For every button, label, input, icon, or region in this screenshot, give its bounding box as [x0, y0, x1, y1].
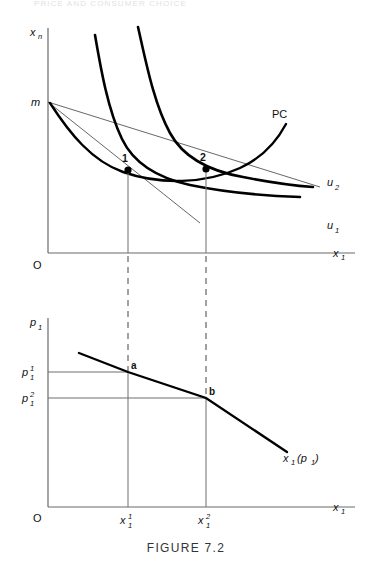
quantity-tick-x1-1-sup: 1 [128, 512, 132, 521]
price-tick-p1-2-base: p [21, 392, 28, 404]
demand-point-b-label: b [209, 386, 215, 397]
u2-label: u [327, 176, 333, 188]
lower-y-axis-label-sub: 1 [38, 323, 42, 332]
figure-canvas: x n x 1 O m PC u 2 u [0, 0, 372, 583]
endowment-label-m: m [31, 96, 40, 108]
upper-x-axis-label: x [332, 247, 339, 259]
quantity-tick-x1-2-sup: 2 [205, 512, 211, 521]
figure-page: PRICE AND CONSUMER CHOICE x n x 1 O m [0, 0, 372, 583]
price-tick-p1-2-sup: 2 [29, 390, 35, 399]
demand-point-a-label: a [131, 360, 137, 371]
lower-x-axis-label-sub: 1 [341, 507, 345, 516]
quantity-tick-x1-1-base: x [119, 514, 126, 526]
lower-origin-label: O [33, 512, 42, 524]
demand-curve [79, 353, 287, 452]
demand-curve-label-arg-open: (p [297, 452, 307, 464]
lower-panel: p 1 x 1 O a b x 1 (p 1 ) p [21, 316, 355, 530]
quantity-tick-x1-1-sub: 1 [128, 521, 132, 530]
upper-x-axis-label-sub: 1 [341, 253, 345, 262]
tangency-point-2-label: 2 [200, 151, 206, 163]
indifference-curve-u2 [138, 27, 313, 187]
price-tick-p1-2-sub: 1 [30, 399, 34, 408]
pc-label: PC [272, 108, 287, 120]
u2-label-sub: 2 [334, 183, 340, 192]
price-tick-p1-1-sup: 1 [30, 364, 34, 373]
upper-y-axis-label-sub: n [38, 32, 42, 41]
lower-x-axis-label: x [332, 501, 339, 513]
lower-y-axis-label: p [29, 316, 36, 328]
quantity-tick-x1-2-base: x [197, 514, 204, 526]
tangency-point-1-label: 1 [122, 152, 128, 164]
price-tick-p1-1-base: p [21, 366, 28, 378]
demand-curve-label-base: x [282, 452, 289, 464]
upper-origin-label: O [33, 259, 42, 271]
upper-y-axis-label: x [29, 26, 36, 38]
price-tick-p1-1-sub: 1 [30, 373, 34, 382]
tangency-point-2 [202, 165, 209, 172]
demand-curve-label-sub: 1 [291, 458, 295, 467]
price-consumption-curve [50, 103, 286, 181]
quantity-tick-x1-2-sub: 1 [206, 521, 210, 530]
tangency-point-1 [124, 166, 131, 173]
u1-label-sub: 1 [335, 226, 339, 235]
upper-panel: x n x 1 O m PC u 2 u [29, 26, 355, 271]
figure-caption: FIGURE 7.2 [147, 541, 225, 555]
u1-label: u [327, 219, 333, 231]
